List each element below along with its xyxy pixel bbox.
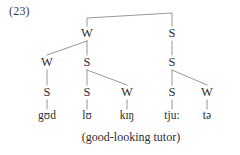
edge-n4-n8 — [87, 70, 127, 85]
edge-n1-n3 — [47, 41, 87, 55]
gloss-text: (good-looking tutor) — [60, 130, 180, 144]
tree-node-w-level3-5: W — [194, 86, 220, 99]
tree-node-w-level2-left: W — [34, 56, 60, 69]
tree-node-s-level3-2: S — [74, 86, 100, 99]
gloss-line: (good-looking tutor) — [0, 130, 240, 144]
tree-node-w-level3-3: W — [114, 86, 140, 99]
edge-n5-n10 — [172, 70, 207, 85]
edge-root-to-level1 — [87, 13, 172, 26]
example-number: (23) — [9, 4, 30, 18]
example-figure: (23) W S W S S S S W S W gʊd lʊ kɪŋ tju:… — [0, 0, 240, 155]
tree-node-s-level3-4: S — [159, 86, 185, 99]
tree-node-s-level2-right: S — [159, 56, 185, 69]
tree-node-s-level1: S — [159, 27, 185, 40]
tree-node-s-level2-mid: S — [74, 56, 100, 69]
terminal-syllable-5: tə — [179, 109, 235, 122]
tree-node-s-level3-1: S — [34, 86, 60, 99]
tree-node-w-level1: W — [74, 27, 100, 40]
